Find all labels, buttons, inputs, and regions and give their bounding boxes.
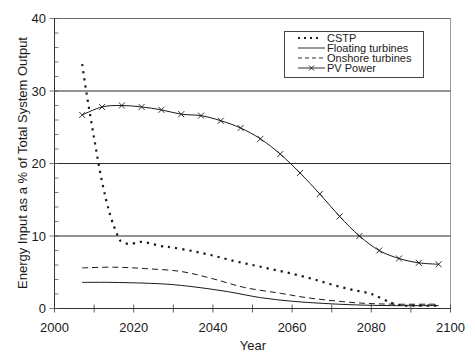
line-chart: 2000 2020 2040 2060 2080 2100 0 10 20 30…: [0, 0, 475, 362]
x-tick-label: 2060: [278, 320, 307, 335]
y-tick-label: 40: [32, 11, 46, 26]
x-tick-labels: 2000 2020 2040 2060 2080 2100: [40, 320, 465, 335]
x-tick-label: 2040: [198, 320, 227, 335]
x-tick-label: 2100: [436, 320, 465, 335]
y-tick-label: 20: [32, 156, 46, 171]
y-tick-label: 10: [32, 229, 46, 244]
legend-label-pv-power: PV Power: [327, 62, 376, 74]
y-tick-label: 30: [32, 84, 46, 99]
x-axis-title: Year: [240, 338, 267, 353]
y-tick-labels: 0 10 20 30 40: [32, 11, 46, 316]
y-axis-title: Energy Input as a % of Total System Outp…: [15, 37, 30, 289]
x-tick-label: 2020: [119, 320, 148, 335]
y-tick-label: 0: [39, 301, 46, 316]
x-tick-label: 2000: [40, 320, 69, 335]
legend: CSTP Floating turbines Onshore turbines …: [285, 32, 424, 78]
x-tick-label: 2080: [357, 320, 386, 335]
